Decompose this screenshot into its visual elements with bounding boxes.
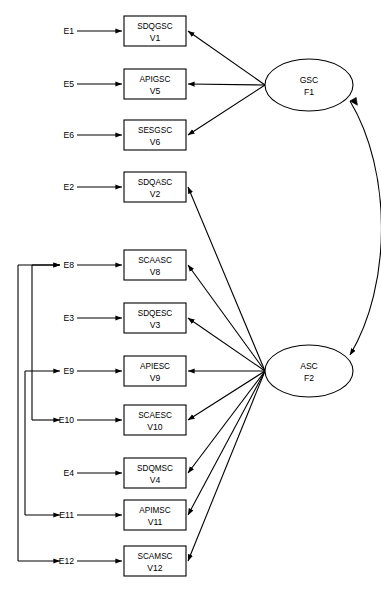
indicator-varname-V3: V3: [150, 320, 161, 330]
loading-arrow-F2-to-V12: [188, 371, 265, 561]
error-path-group: [77, 31, 122, 561]
indicator-label-V6: SESGSC: [138, 126, 172, 135]
loading-arrow-F1-to-V6: [188, 85, 265, 135]
indicator-varname-V4: V4: [150, 475, 161, 485]
indicator-label-V1: SDQGSC: [137, 22, 173, 31]
loading-arrow-F2-to-V11: [188, 371, 265, 515]
loading-arrow-F1-to-V1: [188, 31, 265, 85]
loading-arrow-F2-to-V8: [188, 265, 265, 371]
factor-name-F2: ASC: [300, 361, 318, 371]
factor-ellipse-F1: [265, 59, 353, 111]
factor-correlation-arrow-F1-F2: [350, 101, 381, 355]
error-label-E1: E1: [63, 26, 74, 36]
indicator-varname-V8: V8: [150, 267, 161, 277]
indicator-varname-V1: V1: [150, 33, 161, 43]
loading-arrow-F1-to-V5: [188, 84, 265, 85]
error-label-E10: E10: [59, 415, 75, 425]
indicator-label-V8: SCAASC: [138, 256, 172, 265]
indicator-label-V11: APIMSC: [139, 506, 170, 515]
factor-code-F2: F2: [304, 373, 314, 383]
factor-code-F1: F1: [304, 87, 314, 97]
factor-loading-group: [188, 31, 265, 561]
indicator-label-V10: SCAESC: [138, 411, 172, 420]
indicator-varname-V2: V2: [150, 189, 161, 199]
error-label-E9: E9: [63, 366, 74, 376]
loading-arrow-F2-to-V4: [188, 371, 265, 473]
error-label-E12: E12: [59, 556, 75, 566]
indicator-varname-V6: V6: [150, 137, 161, 147]
error-label-E6: E6: [63, 130, 74, 140]
diagram-canvas: SDQGSCV1E1APIGSCV5E5SESGSCV6E6SDQASCV2E2…: [0, 0, 381, 594]
indicator-label-V2: SDQASC: [138, 178, 173, 187]
factor-name-F1: GSC: [300, 75, 319, 85]
error-correlation-group: [18, 265, 60, 561]
error-label-E8: E8: [63, 260, 74, 270]
error-label-E11: E11: [59, 510, 74, 520]
loading-arrow-F2-to-V2: [188, 187, 265, 371]
loading-arrow-F2-to-V10: [188, 371, 265, 420]
indicator-label-V4: SDQMSC: [137, 464, 173, 473]
indicator-label-V12: SCAMSC: [137, 552, 172, 561]
sem-path-diagram: SDQGSCV1E1APIGSCV5E5SESGSCV6E6SDQASCV2E2…: [0, 0, 381, 594]
error-label-E2: E2: [63, 182, 74, 192]
indicator-varname-V5: V5: [150, 86, 161, 96]
error-label-E4: E4: [63, 468, 74, 478]
indicator-label-V3: SDQESC: [138, 309, 173, 318]
indicator-varname-V12: V12: [147, 563, 163, 573]
indicator-varname-V11: V11: [148, 517, 163, 527]
indicator-varname-V10: V10: [147, 422, 163, 432]
indicator-box-group: [124, 16, 186, 576]
indicator-varname-V9: V9: [150, 373, 161, 383]
factor-ellipse-group: [265, 59, 353, 397]
error-label-E5: E5: [63, 79, 74, 89]
error-label-E3: E3: [63, 313, 74, 323]
factor-ellipse-F2: [265, 345, 353, 397]
factor-correlation-arrowhead-F1: [350, 97, 357, 105]
indicator-label-V9: APIESC: [140, 362, 170, 371]
factor-correlation-group: [350, 97, 381, 355]
indicator-label-V5: APIGSC: [140, 75, 171, 84]
